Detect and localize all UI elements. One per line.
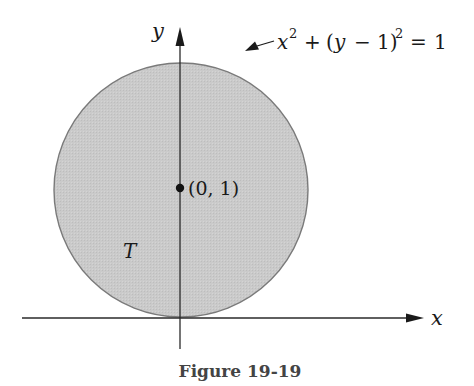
y-axis-label: y: [151, 19, 165, 43]
svg-text:2: 2: [395, 26, 403, 41]
figure-caption: Figure 19-19: [179, 361, 302, 381]
leader-arrow-icon: [245, 42, 259, 52]
svg-text:x: x: [277, 30, 288, 54]
center-point-dot: [176, 184, 184, 192]
x-axis: [22, 314, 424, 323]
x-axis-label: x: [431, 306, 443, 330]
svg-text:+: +: [304, 30, 321, 54]
svg-text:2: 2: [289, 26, 297, 41]
svg-text:−: −: [354, 30, 371, 54]
equation-leader: [245, 41, 274, 51]
svg-text:1: 1: [434, 30, 447, 54]
x-axis-arrow-icon: [406, 314, 424, 323]
circle-equation: x 2 + ( y − 1) 2 = 1: [277, 26, 447, 54]
region-label: T: [123, 239, 138, 263]
figure-canvas: y x (0, 1) T x 2 + ( y − 1) 2 = 1 Figure…: [0, 0, 474, 386]
svg-text:(: (: [326, 30, 334, 54]
y-axis-arrow-icon: [176, 27, 185, 46]
svg-text:y: y: [333, 30, 346, 54]
center-point-label: (0, 1): [188, 177, 239, 199]
svg-text:=: =: [410, 30, 427, 54]
